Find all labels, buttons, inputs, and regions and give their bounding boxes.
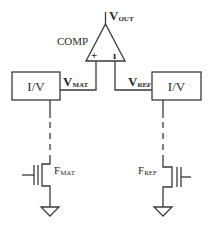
right-iv-label: I/V (168, 79, 186, 94)
fref-channel (163, 158, 172, 207)
left-iv-converter: I/V VMAT (12, 72, 89, 100)
vout-label: VOUT (109, 8, 134, 23)
comparator-circuit-diagram: COMP + ı VOUT I/V VMAT I/V VREF FMAT FR (0, 0, 209, 228)
right-ground-icon (154, 207, 172, 216)
left-iv-label: I/V (27, 79, 45, 94)
vref-label: VREF (128, 74, 151, 89)
vmat-label: VMAT (63, 74, 89, 89)
right-iv-converter: I/V VREF (128, 72, 201, 100)
fref-transistor: FREF (138, 158, 191, 216)
fmat-label: FMAT (54, 164, 76, 177)
comparator-label: COMP (57, 35, 88, 47)
fmat-transistor: FMAT (22, 158, 76, 216)
minus-input-sign: ı (113, 49, 116, 61)
fmat-channel (42, 158, 50, 207)
left-ground-icon (41, 207, 59, 216)
plus-input-sign: + (91, 49, 97, 61)
fref-label: FREF (138, 164, 157, 177)
comparator: COMP + ı VOUT (57, 8, 134, 61)
